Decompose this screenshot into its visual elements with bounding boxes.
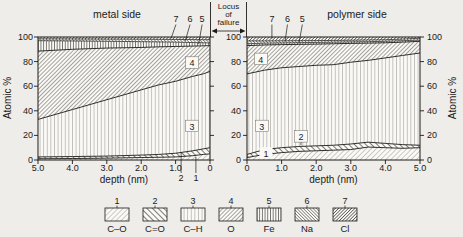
y-tick-label: 20 (231, 130, 241, 140)
region-label: 7 (269, 14, 274, 24)
legend-swatch-C–H (181, 208, 205, 221)
x-tick-label: 1.0 (275, 163, 288, 173)
legend-label: Na (301, 223, 314, 234)
y-tick-label: 0 (28, 155, 33, 165)
y-tick-label: 0 (427, 155, 432, 165)
figure-canvas: 5.04.03.02.01.00depth (nm)100806040200me… (0, 0, 463, 237)
x-tick-label: 1.0 (169, 163, 182, 173)
region-label: 5 (200, 14, 205, 24)
x-tick-label: 5.0 (32, 163, 45, 173)
region-label: 3 (190, 122, 195, 132)
y-axis-title: Atomic % (2, 77, 13, 119)
region-label: 3 (259, 122, 264, 132)
x-tick-label: 2.0 (135, 163, 148, 173)
legend-number: 4 (228, 196, 233, 206)
legend-label: Fe (263, 223, 274, 234)
region-label: 1 (193, 173, 198, 183)
legend-number: 6 (304, 196, 309, 206)
legend-label: C=O (145, 223, 165, 234)
x-tick-label: 5.0 (414, 163, 427, 173)
x-axis-title: depth (nm) (309, 174, 357, 185)
y-tick-label: 80 (231, 57, 241, 67)
y-tick-label: 60 (23, 81, 33, 91)
y-tick-label: 0 (236, 155, 241, 165)
y-axis-title: Atomic % (447, 77, 458, 119)
y-tick-label: 20 (427, 130, 437, 140)
legend-label: O (227, 223, 234, 234)
x-axis-title: depth (nm) (100, 174, 148, 185)
legend-swatch-Cl (333, 208, 357, 221)
legend-swatch-O (219, 208, 243, 221)
chart-title: polymer side (327, 8, 387, 20)
legend-label: C–O (107, 223, 127, 234)
y-tick-label: 80 (427, 57, 437, 67)
y-tick-label: 20 (23, 130, 33, 140)
legend-swatch-Na (295, 208, 319, 221)
y-tick-label: 60 (231, 81, 241, 91)
region-label: 1 (264, 149, 269, 159)
chart-metal: 5.04.03.02.01.00depth (nm)100806040200me… (18, 8, 214, 185)
x-tick-label: 2.0 (310, 163, 323, 173)
region-label: 2 (179, 173, 184, 183)
x-tick-label: 4.0 (66, 163, 79, 173)
label-leader (171, 25, 176, 39)
legend-swatch-C–O (105, 208, 129, 221)
legend: 1C–O2C=O3C–H4O5Fe6Na7Cl (105, 196, 357, 234)
xps-depth-profile-figure: 5.04.03.02.01.00depth (nm)100806040200me… (0, 0, 463, 237)
region-label: 7 (173, 14, 178, 24)
legend-swatch-Fe (257, 208, 281, 221)
region-label: 6 (285, 14, 290, 24)
y-tick-label: 40 (231, 106, 241, 116)
legend-number: 7 (342, 196, 347, 206)
legend-number: 3 (190, 196, 195, 206)
chart-polymer: 01.02.03.04.05.0depth (nm)10010080806060… (226, 8, 442, 185)
arrowhead-left (212, 29, 218, 34)
x-tick-label: 0 (207, 163, 212, 173)
legend-swatch-C=O (143, 208, 167, 221)
region-label: 6 (188, 14, 193, 24)
y-tick-label: 100 (427, 32, 442, 42)
legend-number: 1 (114, 196, 119, 206)
legend-label: C–H (183, 223, 202, 234)
y-tick-label: 100 (18, 32, 33, 42)
x-tick-label: 4.0 (379, 163, 392, 173)
region-label: 5 (300, 14, 305, 24)
x-tick-label: 3.0 (101, 163, 114, 173)
x-tick-label: 0 (244, 163, 249, 173)
arrowhead-right (240, 29, 246, 34)
legend-number: 5 (266, 196, 271, 206)
chart-title: metal side (93, 8, 141, 20)
region-label: 4 (190, 58, 195, 68)
locus-label-line: failure (218, 18, 240, 27)
y-tick-label: 100 (226, 32, 241, 42)
legend-number: 2 (152, 196, 157, 206)
y-tick-label: 40 (23, 106, 33, 116)
y-tick-label: 60 (427, 81, 437, 91)
legend-label: Cl (341, 223, 350, 234)
y-tick-label: 80 (23, 57, 33, 67)
region-label: 2 (298, 132, 303, 142)
y-tick-label: 40 (427, 106, 437, 116)
region-label: 4 (258, 55, 263, 65)
x-tick-label: 3.0 (345, 163, 358, 173)
